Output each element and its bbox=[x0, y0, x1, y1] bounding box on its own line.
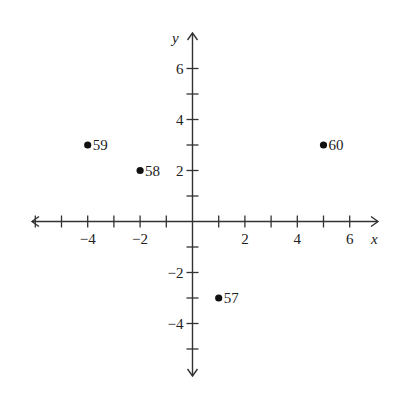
point-label: 57 bbox=[224, 290, 240, 306]
x-axis-label: x bbox=[370, 231, 378, 247]
y-tick-label: 6 bbox=[176, 61, 184, 77]
data-point: 58 bbox=[137, 163, 161, 179]
x-tick-label: −2 bbox=[132, 231, 148, 247]
point-marker-icon bbox=[215, 294, 222, 301]
point-marker-icon bbox=[320, 141, 327, 148]
coordinate-plane: −4−2246642−2−4 59586057 x y bbox=[0, 0, 395, 405]
axes bbox=[32, 33, 378, 376]
point-label: 59 bbox=[93, 137, 108, 153]
y-tick-label: −2 bbox=[168, 265, 184, 281]
point-label: 60 bbox=[329, 137, 344, 153]
point-marker-icon bbox=[137, 167, 144, 174]
y-tick-label: 2 bbox=[176, 163, 184, 179]
data-point: 59 bbox=[84, 137, 108, 153]
x-tick-label: 2 bbox=[241, 231, 249, 247]
x-tick-label: −4 bbox=[80, 231, 96, 247]
y-tick-label: −4 bbox=[168, 316, 184, 332]
coordinate-plane-figure: −4−2246642−2−4 59586057 x y bbox=[0, 0, 395, 405]
x-tick-label: 4 bbox=[294, 231, 302, 247]
x-tick-label: 6 bbox=[346, 231, 354, 247]
tick-labels: −4−2246642−2−4 bbox=[80, 61, 354, 332]
point-label: 58 bbox=[145, 163, 160, 179]
y-tick-label: 4 bbox=[176, 112, 184, 128]
point-marker-icon bbox=[84, 141, 91, 148]
data-point: 60 bbox=[320, 137, 344, 153]
data-point: 57 bbox=[215, 290, 239, 306]
y-axis-label: y bbox=[170, 30, 179, 46]
